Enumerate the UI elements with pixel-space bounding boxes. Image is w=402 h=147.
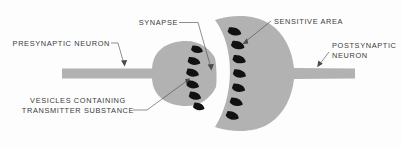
label-sensitive-area: SENSITIVE AREA xyxy=(274,17,343,26)
vesicle xyxy=(193,103,205,111)
label-synapse: SYNAPSE xyxy=(139,18,178,27)
presynaptic-arrowhead xyxy=(121,60,127,67)
label-postsynaptic-neuron-line1: POSTSYNAPTIC xyxy=(332,41,397,50)
presynaptic-terminal-bulb xyxy=(152,41,218,106)
label-postsynaptic-neuron-line2: NEURON xyxy=(332,51,368,60)
label-vesicles-line2: TRANSMITTER SUBSTANCE xyxy=(22,106,134,115)
synapse-diagram: Synapse structure diagram xyxy=(0,0,402,147)
label-vesicles-line1: VESICLES CONTAINING xyxy=(30,96,126,105)
label-presynaptic-neuron: PRESYNAPTIC NEURON xyxy=(13,39,110,48)
